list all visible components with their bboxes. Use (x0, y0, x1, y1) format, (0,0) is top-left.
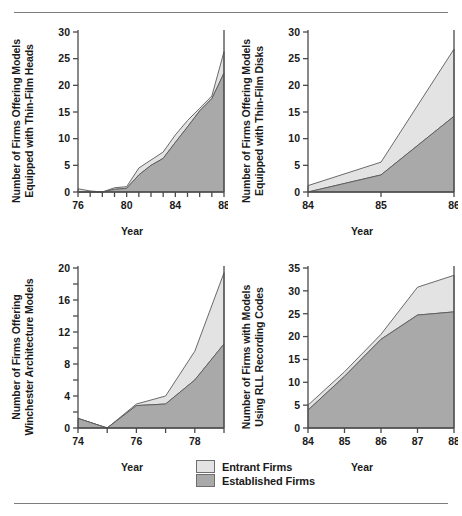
plot-area: 051015202530848586 (282, 24, 458, 224)
y-axis-label: Number of Firms Offering Winchester Arch… (10, 262, 36, 452)
y-tick-label: 20 (288, 79, 300, 91)
y-tick-label: 5 (294, 159, 300, 171)
y-tick-label: 15 (288, 353, 300, 365)
y-tick-label: 10 (288, 376, 300, 388)
y-tick-label: 15 (58, 106, 70, 118)
plot-area: 05101520253076808488 (52, 24, 228, 224)
y-tick-label: 15 (288, 106, 300, 118)
x-tick-label: 74 (72, 435, 84, 447)
chart-panel-rll-recording-codes: Number of Firms with Models Using RLL Re… (238, 256, 460, 484)
y-tick-label: 30 (288, 26, 300, 38)
x-axis-label: Year (52, 461, 212, 473)
area-established-firms (308, 312, 454, 428)
x-tick-label: 76 (131, 435, 143, 447)
y-tick-label: 0 (64, 186, 70, 198)
x-tick-label: 78 (189, 435, 201, 447)
plot-area: 048121620747678 (52, 260, 228, 460)
y-tick-label: 10 (58, 132, 70, 144)
y-tick-label: 25 (288, 308, 300, 320)
y-tick-label: 30 (58, 26, 70, 38)
legend-item-entrant: Entrant Firms (196, 460, 315, 473)
x-axis-label: Year (282, 225, 442, 237)
x-tick-label: 84 (302, 435, 314, 447)
y-tick-label: 35 (288, 262, 300, 274)
legend-item-established: Established Firms (196, 474, 315, 487)
y-tick-label: 25 (58, 52, 70, 64)
legend-swatch-established (196, 474, 215, 487)
y-tick-label: 25 (288, 52, 300, 64)
y-axis-label: Number of Firms Offering Models Equipped… (10, 26, 36, 216)
x-tick-label: 84 (169, 199, 181, 211)
y-tick-label: 5 (294, 399, 300, 411)
bottom-divider-rule (14, 503, 448, 504)
y-axis-label: Number of Firms with Models Using RLL Re… (240, 262, 266, 452)
y-tick-label: 16 (58, 294, 70, 306)
x-tick-label: 88 (218, 199, 228, 211)
y-axis-label: Number of Firms Offering Models Equipped… (240, 26, 266, 216)
chart-panel-winchester-architecture: Number of Firms Offering Winchester Arch… (8, 256, 230, 484)
y-tick-label: 8 (64, 358, 70, 370)
y-tick-label: 12 (58, 326, 70, 338)
y-tick-label: 0 (64, 422, 70, 434)
x-tick-label: 80 (121, 199, 133, 211)
y-tick-label: 4 (64, 390, 70, 402)
y-tick-label: 0 (294, 186, 300, 198)
y-tick-label: 10 (288, 132, 300, 144)
y-tick-label: 0 (294, 422, 300, 434)
x-tick-label: 87 (412, 435, 424, 447)
x-tick-label: 84 (302, 199, 314, 211)
x-tick-label: 86 (448, 199, 458, 211)
area-established-firms (78, 73, 224, 192)
top-divider-rule (14, 12, 448, 13)
chart-panel-thin-film-heads: Number of Firms Offering Models Equipped… (8, 20, 230, 248)
legend-swatch-entrant (196, 460, 215, 473)
legend-label-established: Established Firms (222, 475, 315, 487)
y-tick-label: 30 (288, 285, 300, 297)
y-tick-label: 5 (64, 159, 70, 171)
plot-area: 051015202530358485868788 (282, 260, 458, 460)
chart-panel-thin-film-disks: Number of Firms Offering Models Equipped… (238, 20, 460, 248)
x-tick-label: 85 (375, 199, 387, 211)
y-tick-label: 20 (58, 262, 70, 274)
x-tick-label: 86 (375, 435, 387, 447)
legend: Entrant Firms Established Firms (196, 460, 315, 488)
x-tick-label: 88 (448, 435, 458, 447)
legend-label-entrant: Entrant Firms (222, 461, 292, 473)
x-axis-label: Year (52, 225, 212, 237)
x-tick-label: 85 (339, 435, 351, 447)
y-tick-label: 20 (58, 79, 70, 91)
x-tick-label: 76 (72, 199, 84, 211)
y-tick-label: 20 (288, 330, 300, 342)
